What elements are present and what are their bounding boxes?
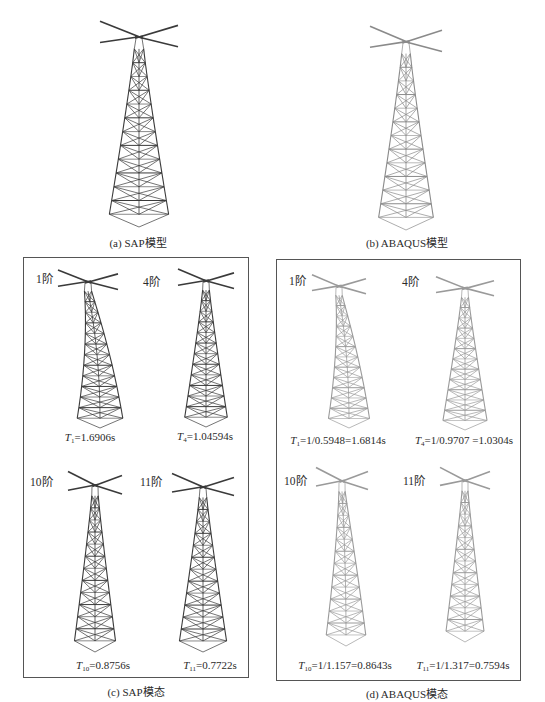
- mode-order-label: 10阶: [284, 472, 307, 488]
- mode-order-label: 11阶: [140, 473, 162, 489]
- mode-order-label: 4阶: [402, 273, 419, 289]
- mode-period: T11=1/1.317=0.7594s: [408, 659, 518, 673]
- panel-a-caption: (a) SAP模型: [88, 234, 188, 250]
- abaqus-mode-10-shape: [320, 462, 372, 646]
- mode-order-label: 1阶: [36, 270, 53, 286]
- mode-order-label: 1阶: [289, 272, 306, 288]
- panel-b-caption: (b) ABAQUS模型: [352, 234, 462, 250]
- abaqus-tower-model-image: [370, 20, 442, 230]
- sap-tower-model-image: [100, 15, 178, 227]
- mode-period: T4=1/0.9707 =1.0304s: [404, 434, 524, 448]
- panel-d-caption: (d) ABAQUS模态: [352, 685, 462, 701]
- mode-period: T11=0.7722s: [170, 659, 250, 673]
- abaqus-mode-4-shape: [436, 272, 494, 430]
- mode-order-label: 4阶: [143, 273, 160, 289]
- mode-order-label: 10阶: [30, 473, 53, 489]
- sap-mode-11-shape: [172, 468, 234, 652]
- abaqus-mode-1-shape: [322, 270, 376, 428]
- mode-period: T10=0.8756s: [63, 659, 143, 673]
- mode-period: T1=1.6906s: [45, 431, 135, 445]
- abaqus-mode-11-shape: [440, 462, 490, 642]
- mode-period: T1=1/0.5948=1.6814s: [278, 434, 398, 448]
- mode-period: T4=1.04594s: [160, 430, 250, 444]
- mode-period: T10=1/1.157=0.8643s: [290, 659, 400, 673]
- sap-mode-1-shape: [70, 265, 130, 428]
- sap-mode-4-shape: [178, 264, 234, 427]
- mode-order-label: 11阶: [403, 472, 425, 488]
- panel-c-caption: (c) SAP模态: [86, 683, 186, 699]
- sap-mode-10-shape: [68, 466, 122, 652]
